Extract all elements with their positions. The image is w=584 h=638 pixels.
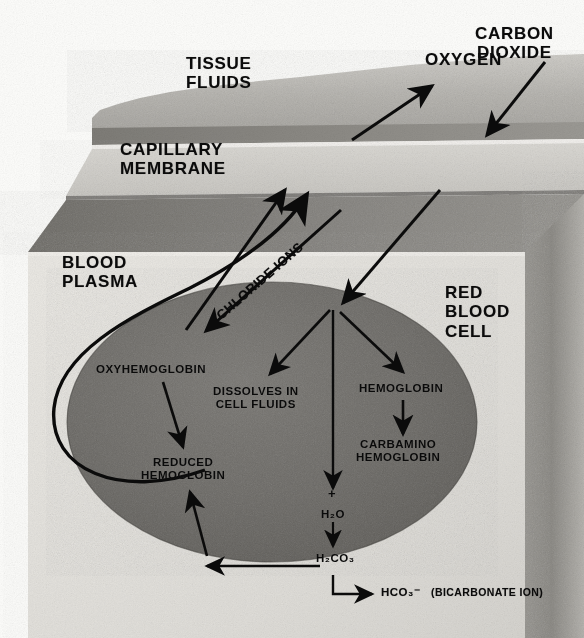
capillary-membrane-label: CAPILLARY MEMBRANE (120, 140, 226, 179)
plus-sign-label: + (328, 487, 336, 502)
hemoglobin-label: HEMOGLOBIN (359, 382, 443, 395)
bicarbonate-formula-label: HCO₃⁻ (381, 586, 420, 599)
tissue-fluids-region (92, 54, 584, 128)
oxyhemoglobin-label: OXYHEMOGLOBIN (96, 363, 206, 376)
tissue-fluids-label: TISSUE FLUIDS (186, 54, 252, 93)
water-formula-label: H₂O (321, 508, 345, 521)
carbon-dioxide-label: CARBON DIOXIDE (475, 24, 554, 63)
diagram-canvas: TISSUE FLUIDS OXYGEN CARBON DIOXIDE CAPI… (0, 0, 584, 638)
reduced-hemoglobin-label: REDUCED HEMOGLOBIN (141, 456, 225, 482)
carbonic-acid-formula-label: H₂CO₃ (316, 552, 354, 565)
red-blood-cell-label: RED BLOOD CELL (445, 283, 510, 341)
bicarbonate-name-label: (BICARBONATE ION) (431, 587, 543, 599)
blood-plasma-label: BLOOD PLASMA (62, 253, 138, 292)
red-blood-cell-shape (67, 282, 477, 562)
dissolves-in-cell-fluids-label: DISSOLVES IN CELL FLUIDS (213, 385, 299, 411)
carbamino-hemoglobin-label: CARBAMINO HEMOGLOBIN (356, 438, 440, 464)
